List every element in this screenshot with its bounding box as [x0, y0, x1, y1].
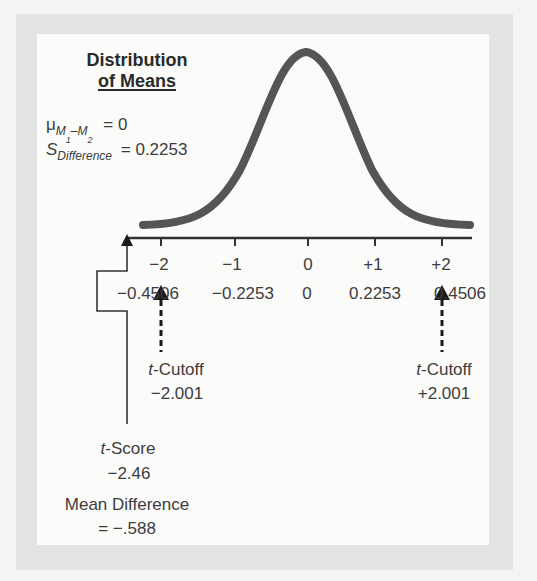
score-text: -Score — [105, 439, 155, 458]
raw-label: 0.2253 — [349, 285, 401, 302]
left-cutoff-label: t-Cutoff — [148, 361, 203, 378]
t-score-bracket-line — [97, 246, 127, 424]
mu-value: = 0 — [103, 115, 127, 134]
z-label: 0 — [303, 256, 312, 273]
s-value: = 0.2253 — [121, 140, 188, 159]
mean-difference-label: Mean Difference — [65, 496, 189, 513]
mu-subscript: M1–M2 — [56, 124, 93, 138]
right-cutoff-value: +2.001 — [418, 385, 470, 402]
s-difference-label: SDifference = 0.2253 — [46, 141, 187, 158]
z-label: +1 — [363, 256, 382, 273]
t-score-label: t-Score — [101, 440, 156, 457]
raw-label: −0.4506 — [117, 285, 179, 302]
figure-title-line2-text: of Means — [98, 71, 176, 91]
left-cutoff-value: −2.001 — [151, 385, 203, 402]
raw-label: 0.4506 — [434, 285, 486, 302]
mu-sub-m1: M — [56, 124, 66, 138]
mu-sub-m2: M — [78, 124, 88, 138]
mu-label: μM1–M2 = 0 — [46, 116, 127, 133]
z-label: −2 — [149, 256, 168, 273]
cutoff-text: -Cutoff — [153, 360, 204, 379]
right-cutoff-label: t-Cutoff — [416, 361, 471, 378]
s-symbol: S — [46, 140, 57, 159]
mean-difference-value: = −.588 — [98, 520, 156, 537]
figure-title-line1: Distribution — [78, 51, 196, 69]
raw-label: −0.2253 — [212, 285, 274, 302]
t-score-value: −2.46 — [107, 465, 150, 482]
raw-label: 0 — [302, 285, 311, 302]
z-label: +2 — [431, 256, 450, 273]
t-score-arrow-icon — [121, 234, 133, 246]
mu-symbol: μ — [46, 115, 56, 134]
cutoff-text: -Cutoff — [421, 360, 472, 379]
s-subscript: Difference — [57, 149, 112, 163]
mu-sub-dash: – — [71, 124, 78, 138]
z-label: −1 — [222, 256, 241, 273]
figure-title-line2: of Means — [78, 72, 196, 90]
